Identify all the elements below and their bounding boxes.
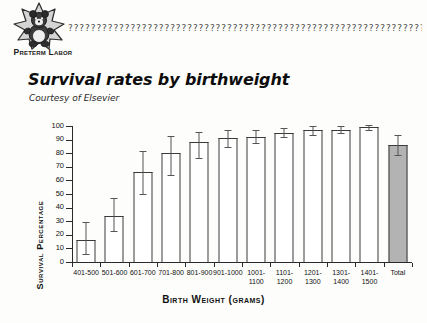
bar-group[interactable] (270, 126, 298, 262)
logo-caption: Preterm Labor (6, 47, 80, 57)
bar-1401-1500[interactable] (360, 127, 379, 262)
error-bar-line (171, 137, 172, 176)
error-bar-cap-lower (366, 130, 373, 131)
bar-group[interactable] (242, 126, 270, 262)
y-tick-label: 90 (56, 134, 64, 143)
bar-group[interactable] (72, 126, 100, 262)
x-tick (185, 263, 186, 267)
x-tick (242, 263, 243, 267)
y-tick-label: 20 (56, 229, 64, 238)
bar-group[interactable] (129, 126, 157, 262)
bar-group[interactable] (299, 126, 327, 262)
page-canvas: Preterm Labor ??????????????????????????… (0, 0, 427, 323)
preterm-labor-logo: Preterm Labor (6, 2, 74, 64)
error-bar-cap-upper (139, 151, 146, 152)
error-bar-cap-upper (366, 125, 373, 126)
bar-1301-1400[interactable] (332, 130, 351, 262)
error-bar-cap-lower (281, 137, 288, 138)
bar-series (72, 126, 412, 263)
x-axis-label-line: Total (375, 268, 421, 277)
error-bar-cap-lower (83, 254, 90, 255)
bar-group[interactable] (327, 126, 355, 262)
page-header: Preterm Labor ??????????????????????????… (0, 0, 427, 66)
error-bar-line (114, 199, 115, 232)
y-tick-label: 80 (56, 148, 64, 157)
bear-on-starburst-icon (11, 2, 67, 50)
error-bar-cap-upper (224, 130, 231, 131)
page-title: Survival rates by birthweight (28, 70, 289, 89)
bar-1101-1200[interactable] (275, 133, 294, 262)
bar-group[interactable] (214, 126, 242, 262)
error-bar-line (86, 223, 87, 256)
error-bar-cap-lower (196, 158, 203, 159)
error-bar-cap-lower (111, 231, 118, 232)
error-bar-line (397, 136, 398, 156)
page-subtitle: Courtesy of Elsevier (29, 93, 119, 103)
error-bar-cap-lower (394, 155, 401, 156)
bar-group[interactable] (185, 126, 213, 262)
error-bar-cap-lower (338, 133, 345, 134)
x-tick (384, 263, 385, 267)
bar-901-1000[interactable] (218, 138, 237, 262)
error-bar-cap-lower (139, 194, 146, 195)
error-bar-line (142, 152, 143, 196)
x-tick (299, 263, 300, 267)
y-tick-label: 70 (56, 161, 64, 170)
bar-1201-1300[interactable] (303, 130, 322, 262)
x-tick (270, 263, 271, 267)
bar-1001-1100[interactable] (247, 137, 266, 262)
error-bar-cap-upper (168, 136, 175, 137)
x-tick (412, 263, 413, 267)
x-tick (72, 263, 73, 267)
error-bar-line (199, 133, 200, 159)
bar-group[interactable] (157, 126, 185, 262)
error-bar-cap-upper (309, 126, 316, 127)
error-bar-cap-upper (196, 132, 203, 133)
x-axis-label-line: 1500 (347, 277, 393, 286)
x-tick (100, 263, 101, 267)
error-bar-cap-lower (168, 175, 175, 176)
error-bar-cap-upper (83, 222, 90, 223)
error-bar-cap-upper (253, 130, 260, 131)
error-bar-cap-lower (309, 135, 316, 136)
bar-801-900[interactable] (190, 142, 209, 262)
survival-rate-bar-chart: Survival Percentage 01020304050607080901… (0, 110, 427, 323)
error-bar-cap-upper (281, 128, 288, 129)
y-tick-label: 40 (56, 202, 64, 211)
x-tick (129, 263, 130, 267)
x-tick (327, 263, 328, 267)
x-axis-title: Birth Weight (grams) (0, 294, 427, 305)
bar-group[interactable] (355, 126, 383, 262)
error-bar-cap-lower (224, 147, 231, 148)
bar-group[interactable] (100, 126, 128, 262)
bar-group[interactable] (384, 126, 412, 262)
x-tick (214, 263, 215, 267)
error-bar-cap-upper (394, 135, 401, 136)
x-axis-label: Total (375, 268, 421, 277)
y-tick-label: 60 (56, 175, 64, 184)
x-tick (157, 263, 158, 267)
bar-Total[interactable] (388, 145, 407, 262)
y-tick-label: 30 (56, 216, 64, 225)
x-tick (355, 263, 356, 267)
error-bar-cap-upper (338, 126, 345, 127)
decorative-dingbat-rule: ????????????????????????????????????????… (68, 21, 422, 35)
error-bar-cap-lower (253, 143, 260, 144)
error-bar-cap-upper (111, 198, 118, 199)
y-tick-label: 10 (56, 243, 64, 252)
error-bar-line (227, 131, 228, 147)
y-tick-label: 50 (56, 189, 64, 198)
y-tick-label: 100 (51, 121, 64, 130)
y-tick-label: 0 (60, 257, 64, 266)
